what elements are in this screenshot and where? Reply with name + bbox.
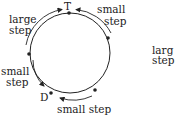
node-D [49, 91, 53, 95]
main-circle [30, 13, 110, 93]
label-small-step-top-1: small [97, 4, 125, 14]
node-left [27, 52, 31, 56]
label-small-step-left-1: small [1, 66, 29, 76]
small-step-arrow-bottom [60, 96, 92, 100]
node-right [106, 36, 110, 40]
label-T: T [64, 1, 71, 11]
label-small-step-bottom: small step [57, 104, 111, 114]
label-large-step-cut-2: step [152, 55, 175, 65]
label-large-step-1: large [9, 14, 37, 24]
label-small-step-top-2: step [104, 16, 127, 26]
label-large-step-2: step [9, 25, 32, 35]
label-D: D [40, 92, 48, 102]
label-small-step-left-2: step [6, 77, 29, 87]
node-bottom-right [93, 88, 97, 92]
